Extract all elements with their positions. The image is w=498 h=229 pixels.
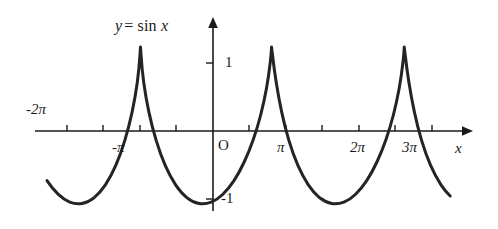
x-label-3pi: 3π [402, 140, 417, 155]
y-axis [208, 17, 218, 211]
x-axis-arrowhead [462, 126, 473, 136]
sine-curve-figure: y=sin x 1 -1 O -2π -π π 2π 3π x [0, 0, 498, 229]
x-label-minus-2pi: -2π [26, 102, 46, 117]
title-equals: = [122, 17, 135, 34]
plot-canvas [0, 0, 498, 229]
y-label-minus-1: -1 [221, 191, 234, 206]
x-label-2pi: 2π [350, 140, 365, 155]
x-label-minus-pi: -π [112, 140, 125, 155]
origin-label: O [218, 138, 229, 153]
title-function: sin [136, 17, 157, 34]
figure-title: y=sin x [115, 18, 168, 34]
y-axis-arrowhead [208, 17, 218, 28]
x-axis-ticks [67, 125, 432, 131]
title-variable: x [161, 17, 168, 34]
y-label-1: 1 [225, 55, 233, 70]
x-label-pi: π [277, 140, 285, 155]
x-axis-label: x [455, 141, 462, 156]
